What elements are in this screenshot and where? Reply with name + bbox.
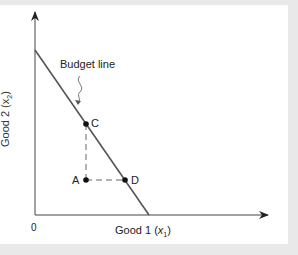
diagram-svg (0, 0, 298, 255)
point-a (83, 177, 89, 183)
point-c (83, 121, 89, 127)
point-d-label: D (131, 174, 139, 186)
x-axis-label: Good 1 (x1) (115, 224, 171, 238)
origin-label: 0 (31, 222, 37, 233)
y-axis-label: Good 2 (x2) (0, 91, 13, 147)
point-d (122, 177, 128, 183)
budget-line (35, 50, 149, 215)
budget-line-label: Budget line (60, 58, 115, 70)
point-a-label: A (72, 174, 79, 186)
point-c-label: C (91, 117, 99, 129)
budget-line-pointer-icon (78, 76, 82, 104)
